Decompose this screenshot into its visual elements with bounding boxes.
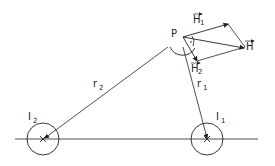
label-r2: r 2 [93,78,103,92]
r1-line [183,47,207,138]
label-r1: r 1 [197,78,207,92]
label-i1: I 1 [216,111,225,125]
svg-text:1: 1 [200,19,204,27]
svg-text:1: 1 [203,84,207,92]
svg-text:r: r [93,78,98,89]
field-diagram: P H 1 H H 2 r 2 r 1 I 2 I 1 [0,0,275,166]
svg-text:2: 2 [99,84,103,92]
label-h1: H 1 [193,14,204,27]
svg-text:r: r [197,78,202,89]
svg-text:I: I [28,111,31,122]
label-h2: H 2 [191,63,202,76]
r2-line [45,47,168,138]
parallelogram-top [228,24,245,47]
label-i2: I 2 [28,111,37,125]
angle-arc-right [192,36,194,46]
svg-text:H: H [246,41,254,52]
parallelogram-bottom [197,47,245,61]
h1-vector [183,24,228,37]
label-p: P [171,28,177,39]
svg-text:1: 1 [221,117,225,125]
svg-text:2: 2 [198,68,202,76]
h-vector [183,37,244,48]
label-h: H [245,41,254,52]
svg-text:I: I [216,111,219,122]
svg-text:2: 2 [33,117,37,125]
